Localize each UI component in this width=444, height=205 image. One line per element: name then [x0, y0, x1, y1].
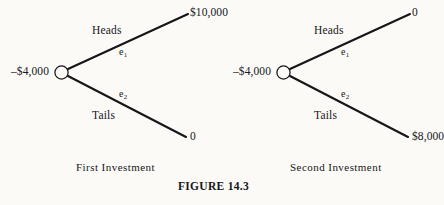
payoff-heads-second-investment: 0: [412, 7, 418, 19]
branch-label-heads-first-investment: Heads: [92, 25, 122, 37]
edge-id-e2-subscript: 2: [124, 93, 128, 101]
figure-14-3: –$4,000 Heads e1 $10,000 e2 Tails 0 Firs…: [0, 0, 444, 205]
payoff-heads-first-investment: $10,000: [190, 7, 228, 19]
payoff-tails-first-investment: 0: [190, 131, 196, 143]
branch-line-tails-2: [290, 76, 408, 137]
payoff-tails-second-investment: $8,000: [412, 131, 444, 143]
edge-id-e1-first-investment: e1: [119, 47, 127, 57]
edge-id-e1-base-2: e: [341, 46, 346, 57]
edge-id-e1-subscript-2: 1: [346, 51, 350, 59]
branch-label-tails-second-investment: Tails: [314, 110, 337, 122]
edge-id-e1-subscript: 1: [124, 51, 128, 59]
edge-id-e2-base-2: e: [341, 88, 346, 99]
root-cost-label-first-investment: –$4,000: [11, 66, 49, 78]
edge-id-e2-base: e: [119, 88, 124, 99]
branch-label-heads-second-investment: Heads: [314, 25, 344, 37]
chance-node-circle-2: [277, 66, 290, 79]
branch-line-tails-1: [68, 76, 186, 137]
figure-caption: FIGURE 14.3: [178, 181, 249, 193]
branch-line-heads-1: [68, 14, 188, 69]
edge-id-e2-second-investment: e2: [341, 89, 349, 99]
chance-node-circle-1: [55, 66, 68, 79]
branch-label-tails-first-investment: Tails: [92, 110, 115, 122]
edge-id-e2-first-investment: e2: [119, 89, 127, 99]
edge-id-e2-subscript-2: 2: [346, 93, 350, 101]
branch-line-heads-2: [290, 14, 410, 69]
edge-id-e1-second-investment: e1: [341, 47, 349, 57]
root-cost-label-second-investment: –$4,000: [233, 66, 271, 78]
edge-id-e1-base: e: [119, 46, 124, 57]
decision-tree-lines: [0, 0, 444, 205]
tree-caption-second-investment: Second Investment: [290, 162, 382, 173]
tree-caption-first-investment: First Investment: [76, 162, 155, 173]
